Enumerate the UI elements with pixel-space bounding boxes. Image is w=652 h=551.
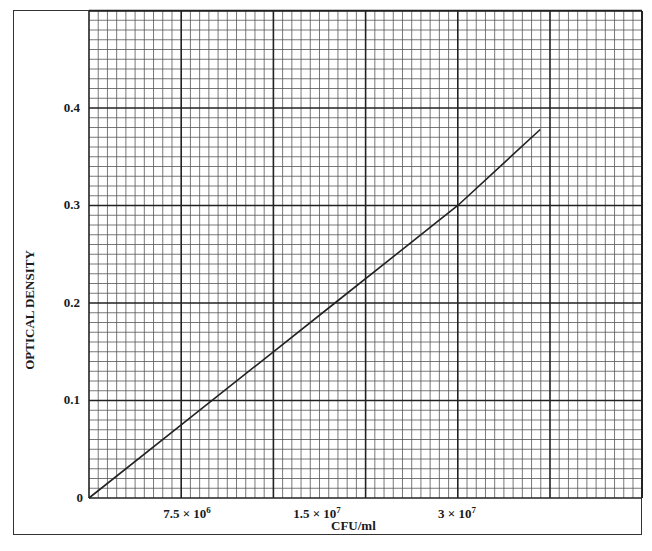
x-tick-label-7.5e6: 7.5 × 106 (163, 505, 211, 522)
plot-area (0, 0, 652, 551)
y-tick-label-0.3: 0.3 (40, 197, 80, 213)
data-line (89, 130, 540, 499)
y-tick-label-0.1: 0.1 (40, 392, 80, 408)
x-axis-title: CFU/ml (331, 518, 376, 534)
y-tick-label-0: 0 (43, 490, 83, 506)
y-axis-title: OPTICAL DENSITY (22, 250, 38, 370)
y-tick-label-0.4: 0.4 (40, 100, 80, 116)
x-tick-label-3e7: 3 × 107 (438, 505, 476, 522)
y-tick-label-0.2: 0.2 (40, 295, 80, 311)
